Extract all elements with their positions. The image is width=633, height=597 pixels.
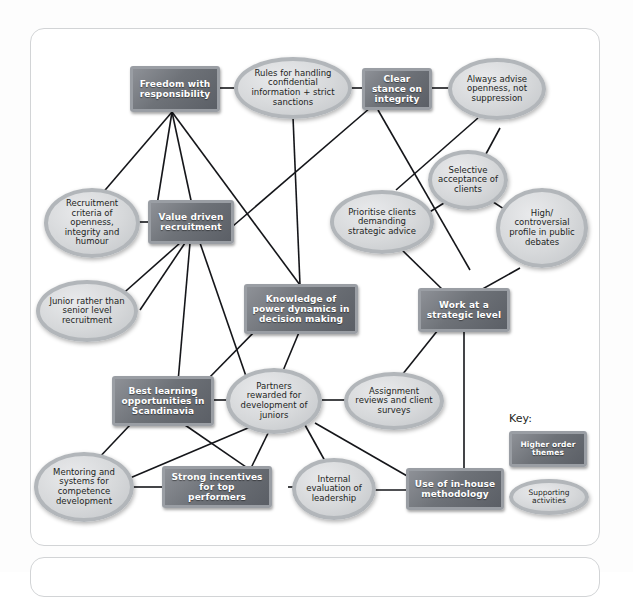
- node-label: Use of in-house methodology: [413, 479, 497, 499]
- node-value-driven-recruitment[interactable]: Value driven recruitment: [148, 200, 234, 244]
- node-rules-confidential-information[interactable]: Rules for handling confidential informat…: [234, 57, 352, 119]
- node-label: Internal evaluation of leadership: [302, 475, 366, 504]
- node-label: Junior rather than senior level recruitm…: [46, 297, 128, 326]
- node-always-advise-openness[interactable]: Always advise openness, not suppression: [448, 58, 546, 120]
- node-label: Strong incentives for top performers: [169, 472, 265, 502]
- node-label: Rules for handling confidential informat…: [244, 69, 342, 107]
- node-internal-evaluation-leadership[interactable]: Internal evaluation of leadership: [292, 458, 376, 520]
- node-knowledge-power-dynamics[interactable]: Knowledge of power dynamics in decision …: [244, 284, 358, 334]
- node-label: Freedom with responsibility: [137, 79, 213, 99]
- node-assignment-reviews-client-surveys[interactable]: Assignment reviews and client surveys: [344, 372, 444, 430]
- node-label: Value driven recruitment: [155, 212, 227, 232]
- node-label: Knowledge of power dynamics in decision …: [251, 294, 351, 324]
- secondary-panel: [30, 557, 600, 597]
- legend: Key: Higher order themes Supporting acti…: [509, 412, 595, 515]
- node-strong-incentives-top-performers[interactable]: Strong incentives for top performers: [162, 466, 272, 508]
- node-label: Work at a strategic level: [425, 300, 503, 320]
- node-label: Clear stance on integrity: [369, 74, 425, 104]
- node-high-controversial-profile[interactable]: High/ controversial profile in public de…: [496, 188, 588, 268]
- node-label: Recruitment criteria of openness, integr…: [54, 199, 130, 247]
- node-label: Selective acceptance of clients: [438, 166, 498, 195]
- legend-theme-label: Higher order themes: [516, 441, 580, 458]
- node-label: High/ controversial profile in public de…: [506, 209, 578, 247]
- node-label: Mentoring and systems for competence dev…: [44, 468, 124, 506]
- legend-support-label: Supporting activities: [519, 489, 579, 506]
- node-use-of-inhouse-methodology[interactable]: Use of in-house methodology: [406, 468, 504, 510]
- legend-title: Key:: [509, 412, 595, 425]
- node-label: Partners rewarded for development of jun…: [236, 382, 312, 420]
- legend-higher-order-themes-swatch: Higher order themes: [509, 431, 587, 467]
- node-label: Prioritise clients demanding strategic a…: [340, 208, 424, 237]
- node-clear-stance-on-integrity[interactable]: Clear stance on integrity: [362, 68, 432, 110]
- node-prioritise-clients-strategic-advice[interactable]: Prioritise clients demanding strategic a…: [330, 190, 434, 254]
- node-label: Always advise openness, not suppression: [458, 75, 536, 104]
- node-label: Assignment reviews and client surveys: [354, 387, 434, 416]
- node-junior-rather-than-senior[interactable]: Junior rather than senior level recruitm…: [36, 280, 138, 342]
- legend-supporting-activities-swatch: Supporting activities: [509, 479, 589, 515]
- node-selective-acceptance-of-clients[interactable]: Selective acceptance of clients: [428, 150, 508, 210]
- node-mentoring-competence-development[interactable]: Mentoring and systems for competence dev…: [34, 452, 134, 522]
- node-freedom-with-responsibility[interactable]: Freedom with responsibility: [130, 66, 220, 112]
- node-work-at-strategic-level[interactable]: Work at a strategic level: [418, 288, 510, 332]
- node-best-learning-opportunities[interactable]: Best learning opportunities in Scandinav…: [112, 376, 214, 426]
- node-label: Best learning opportunities in Scandinav…: [119, 386, 207, 416]
- node-partners-rewarded-development[interactable]: Partners rewarded for development of jun…: [226, 368, 322, 434]
- node-recruitment-criteria[interactable]: Recruitment criteria of openness, integr…: [44, 188, 140, 258]
